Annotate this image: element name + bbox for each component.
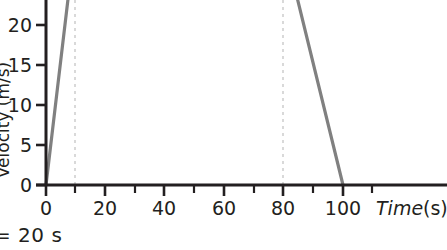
chart-caption: = 20 s	[0, 223, 62, 247]
y-tick-label: 5	[20, 134, 32, 156]
x-tick-label: 100	[325, 197, 361, 219]
y-tick-label: 0	[20, 174, 32, 196]
x-axis-title: Time (s)	[376, 197, 447, 219]
x-tick-label: 40	[152, 197, 176, 219]
y-tick-label: 20	[8, 14, 32, 36]
series-velocity	[46, 0, 343, 185]
x-axis-title-unit: (s)	[423, 197, 447, 219]
x-tick-label: 0	[40, 197, 52, 219]
x-tick-label: 20	[93, 197, 117, 219]
y-axis-title-text: Velocity (m/s)	[0, 62, 13, 179]
x-tick-label: 60	[212, 197, 236, 219]
x-axis-tick-labels: 0 20 40 60 80 100	[40, 197, 361, 219]
y-tick-label: 15	[8, 54, 32, 76]
y-axis-title: Velocity (m/s)	[0, 62, 13, 179]
velocity-time-chart: Velocity (m/s) 20 15 10 5 0	[0, 0, 447, 250]
y-tick-label: 10	[8, 94, 32, 116]
x-tick-label: 80	[271, 197, 295, 219]
x-axis-title-variable: Time	[376, 197, 423, 219]
chart-svg: Velocity (m/s) 20 15 10 5 0	[0, 0, 447, 250]
